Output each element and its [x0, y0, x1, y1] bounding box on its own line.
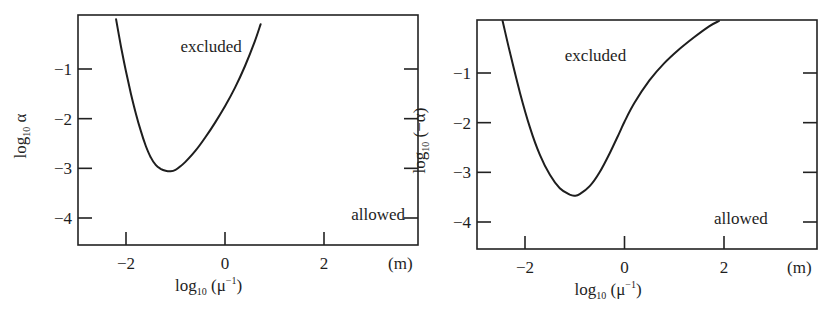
x-unit-label: (m) [388, 254, 413, 273]
x-tick-label: 2 [720, 258, 729, 277]
y-tick-label: −2 [54, 110, 72, 129]
x-tick-label: −2 [516, 258, 534, 277]
y-tick-label: −1 [54, 60, 72, 79]
y-tick-label: −4 [54, 209, 73, 228]
y-axis-label: log10 α [11, 113, 32, 158]
x-axis-label: log10 (μ−1) [575, 279, 642, 301]
x-tick-label: 0 [221, 254, 230, 273]
left-chart-panel: −1−2−3−4 −202 excluded allowed (m) log10… [11, 15, 418, 297]
x-axis-ticks: −202 [516, 236, 728, 277]
figure-canvas: −1−2−3−4 −202 excluded allowed (m) log10… [0, 0, 828, 310]
y-tick-label: −4 [453, 213, 472, 232]
x-unit-label: (m) [787, 258, 812, 277]
y-tick-label: −2 [453, 114, 471, 133]
y-axis-ticks: −1−2−3−4 [453, 64, 817, 232]
y-axis-label: log10 (−α) [410, 108, 431, 174]
excluded-region-label: excluded [565, 46, 627, 65]
allowed-region-label: allowed [351, 205, 405, 224]
x-axis-label: log10 (μ−1) [175, 275, 242, 297]
x-axis-ticks: −202 [117, 232, 328, 273]
allowed-region-label: allowed [714, 209, 768, 228]
x-tick-label: −2 [117, 254, 135, 273]
y-tick-label: −3 [54, 159, 72, 178]
y-tick-label: −3 [453, 163, 471, 182]
x-tick-label: 0 [620, 258, 629, 277]
y-tick-label: −1 [453, 64, 471, 83]
x-tick-label: 2 [320, 254, 329, 273]
excluded-region-label: excluded [180, 37, 242, 56]
right-chart-panel: −1−2−3−4 −202 excluded allowed (m) log10… [410, 20, 817, 301]
